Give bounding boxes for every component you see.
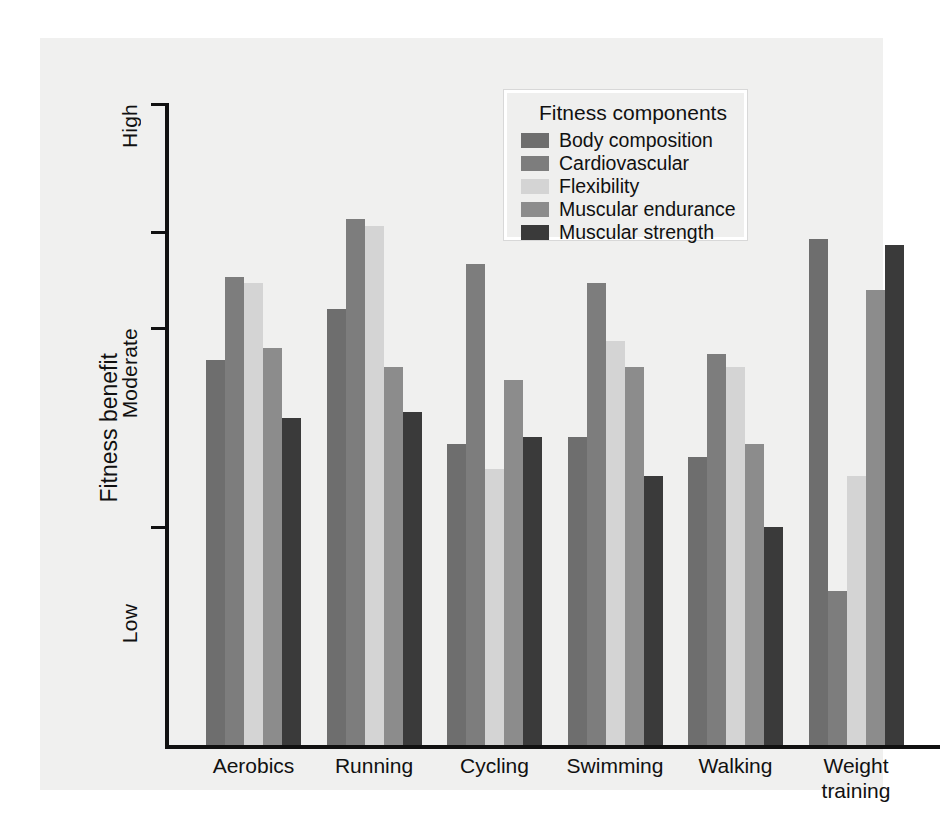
legend-title: Fitness components	[539, 101, 734, 125]
bar	[485, 469, 504, 745]
bar-group	[206, 104, 301, 745]
legend-item[interactable]: Body composition	[521, 129, 734, 152]
y-tick-label-moderate: Moderate	[118, 328, 142, 418]
legend-swatch-icon	[521, 225, 549, 240]
bar	[244, 283, 263, 745]
legend-item[interactable]: Cardiovascular	[521, 152, 734, 175]
bar	[466, 264, 485, 745]
bar	[447, 444, 466, 745]
bar	[365, 226, 384, 745]
bar	[688, 457, 707, 745]
bar	[225, 277, 244, 745]
bar	[707, 354, 726, 745]
bar	[606, 341, 625, 745]
bar	[625, 367, 644, 745]
bar	[327, 309, 346, 745]
bar	[206, 360, 225, 745]
category-label: Weight training	[784, 753, 929, 803]
bar	[346, 219, 365, 745]
bar	[587, 283, 606, 745]
legend-label: Muscular endurance	[559, 198, 736, 221]
chart-legend: Fitness components Body compositionCardi…	[504, 90, 747, 240]
bar	[644, 476, 663, 745]
bar	[745, 444, 764, 745]
bar	[885, 245, 904, 745]
legend-swatch-icon	[521, 179, 549, 194]
bar	[403, 412, 422, 745]
legend-swatch-icon	[521, 156, 549, 171]
legend-item[interactable]: Muscular endurance	[521, 198, 734, 221]
y-tick-2	[151, 327, 169, 330]
legend-item[interactable]: Flexibility	[521, 175, 734, 198]
bar	[828, 591, 847, 745]
y-tick-label-low: Low	[118, 604, 142, 643]
bar	[504, 380, 523, 745]
bar	[809, 239, 828, 745]
bar-group	[809, 104, 904, 745]
legend-label: Body composition	[559, 129, 713, 152]
y-tick-label-high: High	[118, 104, 142, 148]
legend-label: Flexibility	[559, 175, 639, 198]
bar-group	[327, 104, 422, 745]
legend-label: Cardiovascular	[559, 152, 689, 175]
y-tick-3	[151, 526, 169, 529]
bar	[847, 476, 866, 745]
x-axis-line	[165, 745, 940, 749]
legend-label: Muscular strength	[559, 221, 714, 244]
bar	[263, 348, 282, 745]
bar	[726, 367, 745, 745]
bar	[523, 437, 542, 745]
bar	[764, 527, 783, 745]
bar	[384, 367, 403, 745]
y-tick-1	[151, 231, 169, 234]
bar	[568, 437, 587, 745]
y-tick-0	[151, 103, 169, 106]
bar	[282, 418, 301, 745]
chart-panel: Fitness benefit HighModerateLow Aerobics…	[40, 38, 883, 790]
legend-swatch-icon	[521, 133, 549, 148]
legend-item[interactable]: Muscular strength	[521, 221, 734, 244]
legend-swatch-icon	[521, 202, 549, 217]
legend-entries: Body compositionCardiovascularFlexibilit…	[521, 129, 734, 244]
bar	[866, 290, 885, 745]
